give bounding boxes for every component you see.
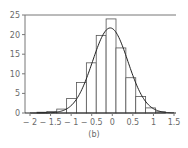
x-tick-label: − 1 (64, 118, 78, 127)
y-tick-label: 25 (10, 11, 20, 20)
x-axis-ticks: − 2− 1.5− 1− 0.500.511.5 (23, 113, 181, 127)
x-tick-label: − 0.5 (81, 118, 103, 127)
x-tick-label: 1 (151, 118, 156, 127)
x-tick-label: − 1.5 (40, 118, 62, 127)
y-tick-label: 15 (10, 50, 20, 59)
y-tick-label: 20 (10, 31, 20, 40)
y-axis-ticks: 0510152025 (10, 11, 25, 118)
histogram-bar (126, 78, 136, 113)
histogram-chart: 0510152025 − 2− 1.5− 1− 0.500.511.5 (0, 0, 188, 148)
y-tick-label: 10 (10, 70, 20, 79)
histogram-bar (106, 19, 116, 113)
x-tick-label: 0 (110, 118, 115, 127)
histogram-bar (116, 48, 126, 113)
x-tick-label: − 2 (23, 118, 37, 127)
histogram-bars (37, 19, 165, 113)
y-tick-label: 0 (15, 109, 20, 118)
x-tick-label: 0.5 (126, 118, 139, 127)
x-tick-label: 1.5 (168, 118, 181, 127)
histogram-bar (86, 63, 96, 113)
y-tick-label: 5 (15, 89, 20, 98)
figure-caption: (b) (0, 130, 188, 139)
